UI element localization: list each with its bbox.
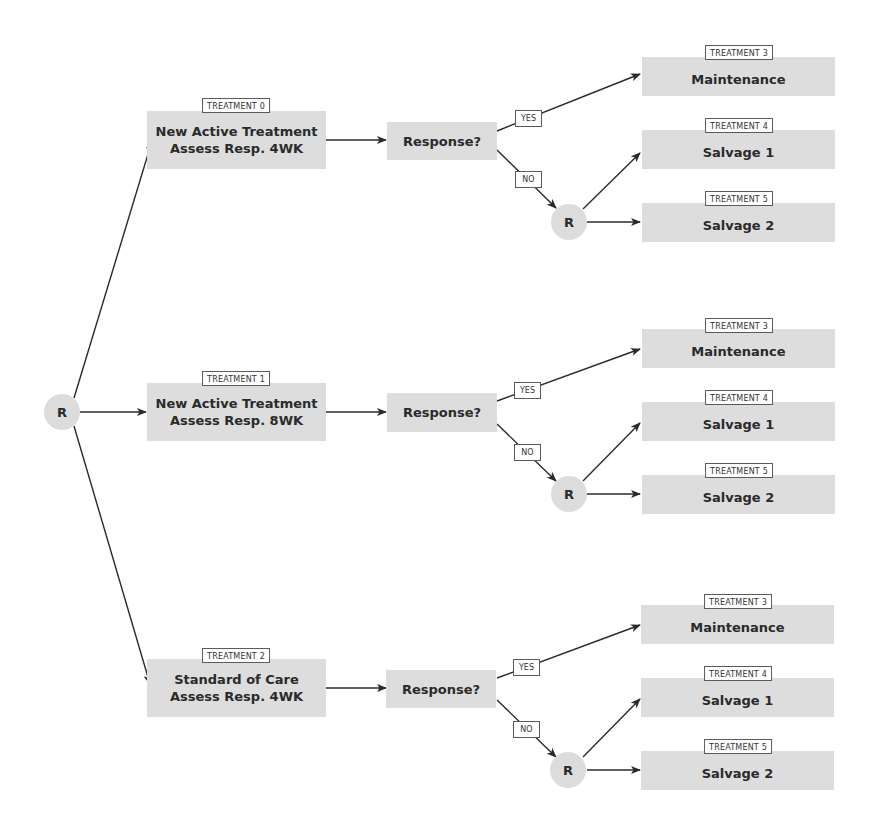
- arm-0-line1: New Active Treatment: [156, 123, 318, 140]
- outcome-label: Salvage 1: [702, 692, 774, 709]
- arm-0-treatment-box: New Active TreatmentAssess Resp. 4WK: [147, 111, 326, 169]
- arm-2-line1: Standard of Care: [170, 671, 303, 688]
- arm-2-rerandomize-node: R: [550, 752, 586, 788]
- arm-2-outcome-1-tag: TREATMENT 4: [704, 666, 772, 681]
- arm-2-rerandomize-label: R: [563, 763, 573, 778]
- arm-1-outcome-0-tag: TREATMENT 3: [705, 318, 773, 333]
- arm-0-tag: TREATMENT 0: [202, 98, 270, 113]
- outcome-label: Salvage 1: [703, 416, 775, 433]
- arm-1-rerandomize-node: R: [551, 476, 587, 512]
- arm-1-tag: TREATMENT 1: [202, 371, 270, 386]
- arm-1-outcome-2-tag: TREATMENT 5: [705, 463, 773, 478]
- arm-0-no-label: NO: [515, 171, 542, 188]
- arm-2-outcome-0-tag: TREATMENT 3: [704, 594, 772, 609]
- outcome-label: Maintenance: [691, 343, 785, 360]
- arm-0-yes-label: YES: [515, 110, 542, 127]
- arm-0-outcome-salvage-1: Salvage 1: [642, 130, 835, 169]
- outcome-label: Maintenance: [691, 71, 785, 88]
- arm-1-decision-box: Response?: [387, 393, 497, 432]
- arm-0-outcome-0-tag: TREATMENT 3: [705, 45, 773, 60]
- arm-1-no-label: NO: [514, 444, 541, 461]
- arm-2-decision-label: Response?: [402, 681, 480, 698]
- arm-1-outcome-salvage-2: Salvage 2: [642, 475, 835, 514]
- root-label: R: [57, 405, 67, 420]
- arm-2-outcome-salvage-1: Salvage 1: [641, 678, 834, 717]
- arm-0-rerandomize-node: R: [551, 204, 587, 240]
- arm-2-line2: Assess Resp. 4WK: [170, 688, 303, 705]
- arm-0-decision-label: Response?: [403, 133, 481, 150]
- arm-1-decision-label: Response?: [403, 404, 481, 421]
- arm-1-treatment-box: New Active TreatmentAssess Resp. 8WK: [147, 383, 326, 441]
- outcome-label: Maintenance: [690, 619, 784, 636]
- arm-0-line2: Assess Resp. 4WK: [156, 140, 318, 157]
- outcome-label: Salvage 2: [703, 217, 775, 234]
- arm-1-outcome-1-tag: TREATMENT 4: [705, 390, 773, 405]
- arm-1-yes-label: YES: [514, 382, 541, 399]
- arm-0-outcome-2-tag: TREATMENT 5: [705, 191, 773, 206]
- arm-0-decision-box: Response?: [387, 122, 497, 160]
- arm-2-tag: TREATMENT 2: [202, 648, 270, 663]
- arm-0-outcome-1-tag: TREATMENT 4: [705, 118, 773, 133]
- arm-1-rerandomize-label: R: [564, 487, 574, 502]
- outcome-label: Salvage 1: [703, 144, 775, 161]
- root-randomization-node: R: [44, 394, 80, 430]
- outcome-label: Salvage 2: [703, 489, 775, 506]
- arm-2-outcome-maintenance: Maintenance: [641, 605, 834, 644]
- arm-2-outcome-2-tag: TREATMENT 5: [704, 739, 772, 754]
- arm-0-rerandomize-label: R: [564, 215, 574, 230]
- arm-1-line2: Assess Resp. 8WK: [156, 412, 318, 429]
- outcome-label: Salvage 2: [702, 765, 774, 782]
- arm-2-outcome-salvage-2: Salvage 2: [641, 751, 834, 790]
- arm-2-yes-label: YES: [513, 659, 540, 676]
- arm-0-outcome-salvage-2: Salvage 2: [642, 203, 835, 242]
- arm-2-treatment-box: Standard of CareAssess Resp. 4WK: [147, 659, 326, 717]
- arm-0-outcome-maintenance: Maintenance: [642, 57, 835, 96]
- arm-2-no-label: NO: [513, 721, 540, 738]
- arm-1-line1: New Active Treatment: [156, 395, 318, 412]
- arm-1-outcome-maintenance: Maintenance: [642, 329, 835, 368]
- arm-1-outcome-salvage-1: Salvage 1: [642, 402, 835, 441]
- arm-2-decision-box: Response?: [386, 670, 496, 708]
